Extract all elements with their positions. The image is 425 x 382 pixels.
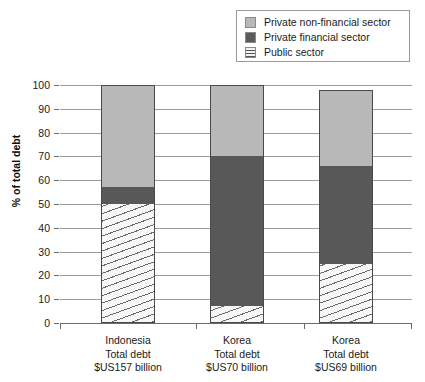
hatched-swatch-icon xyxy=(245,47,256,58)
x-tick-mark xyxy=(196,323,197,329)
y-tick-label: 30 xyxy=(22,247,50,257)
y-tick-mark xyxy=(54,252,59,253)
y-tick-label: 20 xyxy=(22,270,50,280)
x-category-line: Total debt xyxy=(281,348,411,362)
y-tick-label: 40 xyxy=(22,223,50,233)
x-category-line: Korea xyxy=(281,334,411,348)
y-tick-mark xyxy=(54,228,59,229)
x-axis-line xyxy=(60,323,412,324)
bar-segment-private-non-financial xyxy=(319,90,373,166)
y-tick-label: 70 xyxy=(22,151,50,161)
y-tick-mark xyxy=(54,109,59,110)
y-tick-label: 60 xyxy=(22,175,50,185)
chart-legend: Private non-financial sector Private fin… xyxy=(236,10,410,62)
dark-gray-swatch-icon xyxy=(245,32,256,43)
plot-area xyxy=(60,85,412,323)
bar-segment-public xyxy=(210,306,264,323)
x-tick-mark xyxy=(60,323,61,329)
y-axis-tick-labels: 100 90 80 70 60 50 40 30 20 10 0 xyxy=(20,85,50,323)
stacked-bar-chart: Private non-financial sector Private fin… xyxy=(0,0,425,382)
y-tick-label: 80 xyxy=(22,128,50,138)
legend-item-public-sector: Public sector xyxy=(245,45,409,60)
bar-segment-private-financial xyxy=(210,156,264,306)
y-tick-mark xyxy=(54,85,59,86)
y-tick-mark xyxy=(54,180,59,181)
y-tick-label: 0 xyxy=(22,318,50,328)
x-tick-mark xyxy=(304,323,305,329)
bar-stack-korea-70 xyxy=(210,85,264,323)
x-tick-mark xyxy=(411,323,412,329)
y-tick-mark xyxy=(54,323,59,324)
y-tick-label: 50 xyxy=(22,199,50,209)
bar-segment-public xyxy=(319,264,373,324)
bar-segment-private-non-financial xyxy=(210,85,264,156)
bar-segment-public xyxy=(101,204,155,323)
y-tick-mark xyxy=(54,299,59,300)
bar-segment-private-non-financial xyxy=(101,85,155,187)
legend-label: Private non-financial sector xyxy=(264,16,391,29)
y-tick-label: 100 xyxy=(22,80,50,90)
legend-item-private-non-financial: Private non-financial sector xyxy=(245,15,409,30)
bar-stack-korea-69 xyxy=(319,90,373,323)
x-category-label-korea-69: Korea Total debt $US69 billion xyxy=(281,334,411,375)
legend-item-private-financial: Private financial sector xyxy=(245,30,409,45)
y-tick-mark xyxy=(54,275,59,276)
y-tick-label: 90 xyxy=(22,104,50,114)
bar-segment-private-financial xyxy=(319,166,373,264)
bar-segment-private-financial xyxy=(101,187,155,204)
y-tick-mark xyxy=(54,133,59,134)
y-tick-mark xyxy=(54,204,59,205)
y-tick-label: 10 xyxy=(22,294,50,304)
y-tick-mark xyxy=(54,156,59,157)
x-category-line: $US69 billion xyxy=(281,361,411,375)
legend-label: Public sector xyxy=(264,46,324,59)
bar-stack-indonesia xyxy=(101,85,155,323)
legend-label: Private financial sector xyxy=(264,31,370,44)
light-gray-swatch-icon xyxy=(245,17,256,28)
